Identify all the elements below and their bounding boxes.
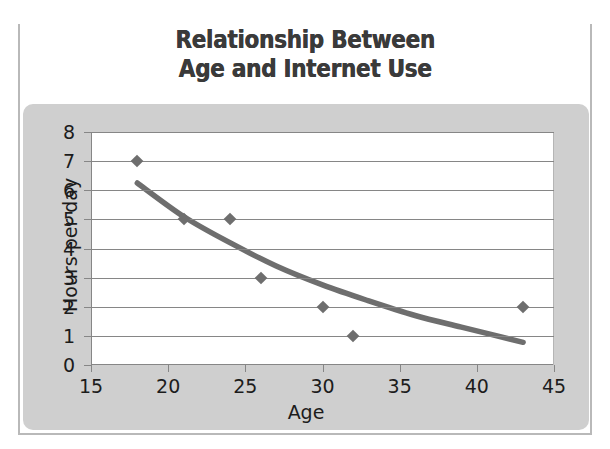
y-axis-tick: [84, 249, 91, 250]
y-axis-tick: [84, 219, 91, 220]
gridline: [91, 219, 554, 220]
x-axis-tick: [477, 365, 478, 372]
x-axis-title: Age: [23, 401, 589, 423]
y-axis-title: Hours per day: [59, 177, 81, 311]
x-axis-tick: [91, 365, 92, 372]
page-title-line-2: Age and Internet Use: [58, 54, 552, 83]
gridline: [91, 249, 554, 250]
gridline: [91, 161, 554, 162]
chart-panel: 012345678 15202530354045 Age Hours per d…: [23, 104, 589, 430]
x-axis-tick: [245, 365, 246, 372]
page-title-line-1: Relationship Between: [58, 25, 552, 54]
chart-page: Relationship Between Age and Internet Us…: [0, 0, 610, 449]
gridline: [91, 278, 554, 279]
x-axis-tick-label: 15: [71, 375, 111, 397]
y-axis-tick-label: 0: [49, 354, 75, 376]
x-axis-tick-label: 30: [303, 375, 343, 397]
gridline: [91, 190, 554, 191]
y-axis-tick-label: 8: [49, 121, 75, 143]
x-axis-tick: [400, 365, 401, 372]
y-axis-tick: [84, 278, 91, 279]
x-axis-tick: [554, 365, 555, 372]
gridline: [91, 132, 554, 133]
x-axis-tick: [323, 365, 324, 372]
page-title: Relationship Between Age and Internet Us…: [58, 25, 552, 83]
y-axis-tick: [84, 365, 91, 366]
x-axis-tick-label: 45: [534, 375, 574, 397]
y-axis-tick: [84, 190, 91, 191]
y-axis-tick-label: 1: [49, 325, 75, 347]
x-axis-tick: [168, 365, 169, 372]
y-axis-tick-label: 7: [49, 150, 75, 172]
x-axis-tick-label: 25: [225, 375, 265, 397]
x-axis-tick-label: 40: [457, 375, 497, 397]
y-axis-tick: [84, 161, 91, 162]
x-axis-tick-label: 20: [148, 375, 188, 397]
gridline: [91, 336, 554, 337]
y-axis-tick: [84, 336, 91, 337]
y-axis-tick: [84, 307, 91, 308]
y-axis-tick: [84, 132, 91, 133]
x-axis-tick-label: 35: [380, 375, 420, 397]
plot-area: [91, 132, 554, 365]
